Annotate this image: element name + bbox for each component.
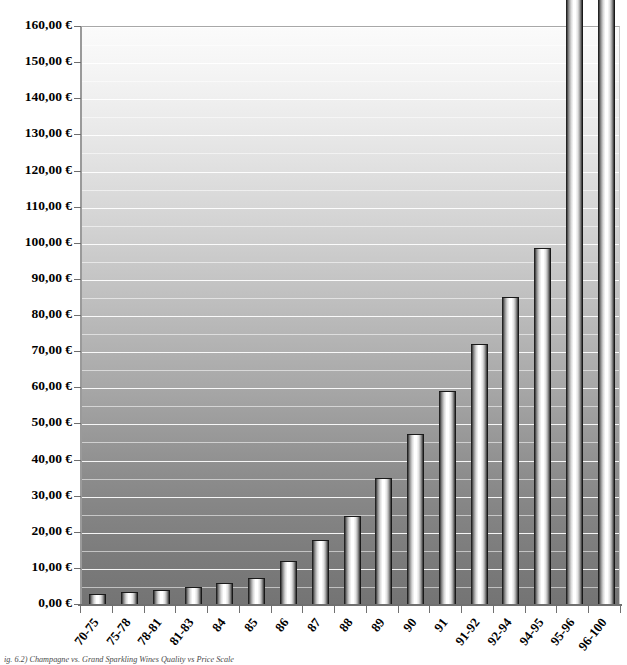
x-axis-tick <box>525 606 526 613</box>
y-axis-tick <box>74 460 81 461</box>
x-axis-tick <box>366 606 367 613</box>
bar <box>566 0 583 604</box>
y-axis-tick <box>74 496 81 497</box>
chart-figure: 0,00 €10,00 €20,00 €30,00 €40,00 €50,00 … <box>0 0 627 665</box>
x-axis-tick <box>175 606 176 613</box>
x-axis-labels: 70-7575-7878-8181-83848586878889909191-9… <box>0 0 627 665</box>
y-axis-tick <box>74 315 81 316</box>
y-axis-tick <box>74 423 81 424</box>
x-axis-tick <box>334 606 335 613</box>
y-axis-tick <box>74 26 81 27</box>
x-axis-tick <box>556 606 557 613</box>
y-axis-tick <box>74 279 81 280</box>
y-axis-tick <box>74 207 81 208</box>
bar <box>598 0 615 604</box>
y-axis-tick <box>74 387 81 388</box>
x-axis-tick <box>620 606 621 613</box>
y-axis-tick <box>74 604 81 605</box>
x-axis-tick <box>239 606 240 613</box>
x-axis-tick <box>144 606 145 613</box>
figure-caption: ig. 6.2) Champagne vs. Grand Sparkling W… <box>4 655 604 664</box>
x-axis-tick <box>429 606 430 613</box>
x-axis-tick <box>271 606 272 613</box>
x-axis-tick <box>493 606 494 613</box>
x-axis-tick <box>80 606 81 613</box>
x-axis-tick <box>588 606 589 613</box>
y-axis-tick <box>74 532 81 533</box>
x-axis-tick <box>302 606 303 613</box>
y-axis-tick <box>74 134 81 135</box>
x-axis-tick <box>207 606 208 613</box>
x-axis-tick <box>461 606 462 613</box>
y-axis-tick <box>74 98 81 99</box>
y-axis-tick <box>74 243 81 244</box>
x-axis-tick <box>398 606 399 613</box>
x-axis-tick <box>112 606 113 613</box>
y-axis-tick <box>74 62 81 63</box>
y-axis-tick <box>74 171 81 172</box>
y-axis-tick <box>74 351 81 352</box>
y-axis-tick <box>74 568 81 569</box>
